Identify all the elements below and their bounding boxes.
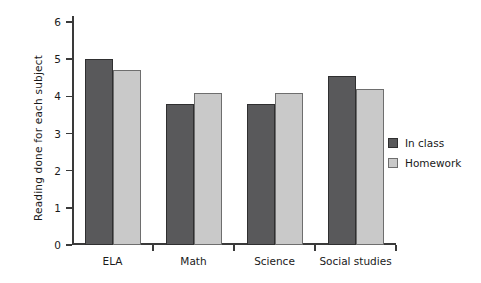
y-tick: 1 bbox=[66, 207, 72, 208]
legend-item-homework: Homework bbox=[388, 153, 461, 173]
y-tick: 5 bbox=[66, 58, 72, 59]
legend-label-in-class: In class bbox=[405, 137, 444, 149]
x-tick bbox=[314, 245, 315, 251]
bar bbox=[275, 93, 303, 245]
x-axis-category-label: Math bbox=[180, 255, 206, 267]
y-tick-label: 3 bbox=[54, 128, 61, 139]
x-tick bbox=[152, 245, 153, 251]
y-tick-label: 1 bbox=[54, 203, 61, 214]
y-tick-label: 0 bbox=[54, 240, 61, 251]
y-tick: 0 bbox=[66, 244, 72, 245]
plot-area: 0123456 ELAMathScienceSocial studies bbox=[72, 22, 396, 245]
legend-label-homework: Homework bbox=[405, 157, 461, 169]
legend-swatch-homework bbox=[388, 158, 398, 168]
y-axis-line bbox=[72, 16, 74, 245]
y-axis-title: Reading done for each subject bbox=[32, 38, 44, 238]
x-tick bbox=[233, 245, 234, 251]
chart-legend: In class Homework bbox=[388, 133, 461, 173]
y-tick: 3 bbox=[66, 133, 72, 134]
legend-swatch-in-class bbox=[388, 138, 398, 148]
bar bbox=[247, 104, 275, 245]
bar-chart: Reading done for each subject 0123456 EL… bbox=[0, 0, 481, 283]
bar bbox=[328, 76, 356, 245]
x-axis-category-label: Science bbox=[254, 255, 295, 267]
bar bbox=[113, 70, 141, 245]
y-tick: 4 bbox=[66, 96, 72, 97]
y-tick-label: 6 bbox=[54, 17, 61, 28]
y-tick-label: 4 bbox=[54, 91, 61, 102]
legend-item-in-class: In class bbox=[388, 133, 461, 153]
y-tick: 6 bbox=[66, 21, 72, 22]
y-tick: 2 bbox=[66, 170, 72, 171]
y-tick-label: 5 bbox=[54, 54, 61, 65]
bar bbox=[166, 104, 194, 245]
bar bbox=[356, 89, 384, 245]
x-axis-category-label: Social studies bbox=[319, 255, 391, 267]
y-tick-label: 2 bbox=[54, 165, 61, 176]
x-tick bbox=[395, 245, 396, 251]
x-axis-category-label: ELA bbox=[103, 255, 123, 267]
bar bbox=[194, 93, 222, 245]
bar bbox=[85, 59, 113, 245]
